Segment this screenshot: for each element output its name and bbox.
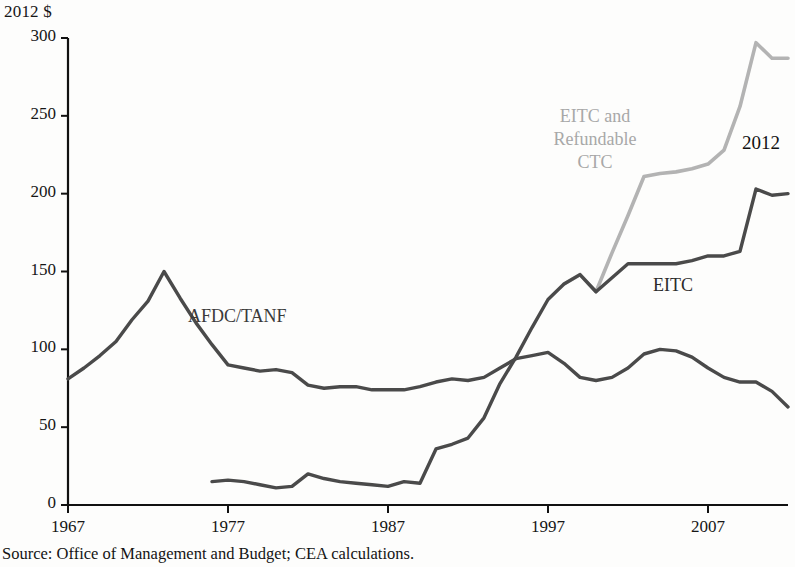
chart-page: 2012 $ 050100150200250300 19671977198719… xyxy=(0,0,795,567)
data-series xyxy=(68,43,788,488)
x-axis-tick-label: 1977 xyxy=(193,517,263,537)
y-axis-tick-label: 50 xyxy=(6,415,56,435)
end-year-label: 2012 xyxy=(742,132,780,154)
x-axis-tick-label: 1967 xyxy=(33,517,103,537)
series-line-eitc xyxy=(212,189,788,488)
series-label-afdc-tanf: AFDC/TANF xyxy=(188,306,287,327)
y-axis-tick-label: 200 xyxy=(6,182,56,202)
x-axis-tick-label: 1987 xyxy=(353,517,423,537)
series-label-eitc-ctc-line2: Refundable xyxy=(530,128,660,151)
source-note: Source: Office of Management and Budget;… xyxy=(2,544,414,564)
x-axis-tick-label: 2007 xyxy=(673,517,743,537)
series-label-eitc-refundable-ctc: EITC and Refundable CTC xyxy=(530,105,660,174)
y-axis-tick-label: 300 xyxy=(6,26,56,46)
series-label-eitc-ctc-line3: CTC xyxy=(530,151,660,174)
series-label-eitc: EITC xyxy=(653,275,693,296)
y-axis-tick-label: 250 xyxy=(6,104,56,124)
y-axis-tick-label: 0 xyxy=(6,493,56,513)
y-axis-tick-label: 150 xyxy=(6,260,56,280)
x-axis-tick-label: 1997 xyxy=(513,517,583,537)
y-axis-tick-label: 100 xyxy=(6,337,56,357)
series-label-eitc-ctc-line1: EITC and xyxy=(530,105,660,128)
